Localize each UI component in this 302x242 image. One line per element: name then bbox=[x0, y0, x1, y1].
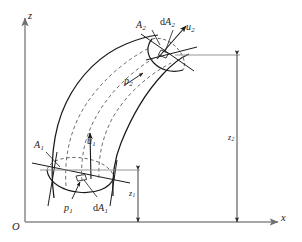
label-p1-subscript: 1 bbox=[69, 207, 72, 214]
stream-tube-walls bbox=[52, 35, 189, 198]
figure-vector-canvas bbox=[0, 0, 302, 242]
label-p2: p2 bbox=[124, 76, 133, 87]
label-p2-subscript: 2 bbox=[129, 80, 132, 87]
streamline-middle bbox=[82, 55, 160, 181]
dA1-element-patch bbox=[76, 175, 87, 182]
label-z1: z1 bbox=[129, 190, 135, 199]
coordinate-axes bbox=[25, 18, 278, 222]
tube-wall-left bbox=[52, 35, 158, 198]
label-dA2-subscript: 2 bbox=[171, 21, 174, 28]
label-z2: z2 bbox=[228, 134, 234, 143]
label-p1: p1 bbox=[64, 203, 73, 214]
leader-dA1 bbox=[84, 180, 97, 197]
label-leader-lines bbox=[46, 30, 173, 197]
internal-streamlines bbox=[66, 48, 171, 186]
leader-dA2 bbox=[165, 30, 173, 52]
label-A1: A1 bbox=[34, 140, 44, 151]
label-z2-subscript: 2 bbox=[231, 136, 234, 142]
label-A2: A2 bbox=[136, 20, 146, 31]
p1-arrow bbox=[72, 182, 80, 199]
A2-plane-trace bbox=[141, 34, 194, 71]
elevation-reference-lines bbox=[40, 55, 240, 170]
label-u2: u2 bbox=[186, 22, 195, 33]
label-dA2: dA2 bbox=[160, 17, 175, 28]
label-z1-subscript: 1 bbox=[132, 192, 135, 198]
stream-tube-figure: z x O A1 A2 dA2 dA1 p1 p2 u1 u2 z1 z2 bbox=[0, 0, 302, 242]
label-dA1-subscript: 1 bbox=[104, 207, 107, 214]
label-A1-subscript: 1 bbox=[40, 144, 43, 151]
pressure-indicator-p1 bbox=[72, 182, 80, 199]
label-u1-subscript: 1 bbox=[92, 140, 95, 147]
A1-ellipse-back bbox=[47, 157, 114, 177]
streamline-inner bbox=[99, 63, 171, 178]
cross-section-A2 bbox=[141, 34, 197, 71]
label-u2-subscript: 2 bbox=[191, 26, 194, 33]
label-A2-subscript: 2 bbox=[142, 24, 145, 31]
label-dA1: dA1 bbox=[93, 203, 108, 214]
x-axis-label: x bbox=[281, 213, 286, 224]
label-u1: u1 bbox=[87, 136, 96, 147]
streamline-outer bbox=[66, 48, 149, 186]
origin-label: O bbox=[12, 222, 20, 233]
z-axis-label: z bbox=[28, 11, 32, 22]
